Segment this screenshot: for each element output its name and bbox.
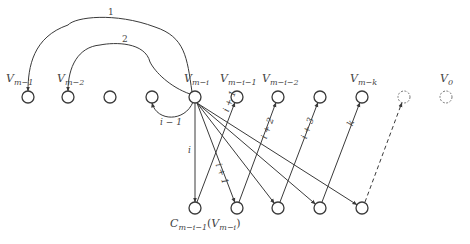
node-v-m-k <box>356 91 368 103</box>
arc-edge-2 <box>68 44 190 94</box>
node-v-c <box>314 91 326 103</box>
label-v-0: V0 <box>440 73 453 87</box>
arc-edge-1 <box>28 17 192 92</box>
node-bottom-c1 <box>189 202 201 214</box>
label-v-m-k: Vm−k <box>350 73 377 87</box>
node-v-m-i-2 <box>272 91 284 103</box>
arc-label-2: 2 <box>122 35 128 44</box>
node-v-0 <box>440 91 452 103</box>
edge-down-c3 <box>197 103 274 203</box>
edge-down-c4 <box>197 103 315 204</box>
node-bottom-c2 <box>231 202 243 214</box>
graph-diagram: Vm−1 Vm−2 Vm−i Vm−i−1 Vm−i−2 Vm−k V0 Cm−… <box>0 0 470 244</box>
node-v-b <box>146 91 158 103</box>
label-v-m-i-1: Vm−i−1 <box>220 73 257 87</box>
label-c-m-i-1: Cm−i−1(Vm−i) <box>170 218 240 232</box>
node-bottom-c3 <box>272 202 284 214</box>
edge-label-i: i <box>188 146 191 155</box>
node-bottom-c4 <box>314 202 326 214</box>
edge-down-c5 <box>197 103 357 205</box>
label-v-m-i: Vm−i <box>184 73 209 87</box>
arc-label-1: 1 <box>108 8 114 17</box>
label-v-m-2: Vm−2 <box>57 73 84 87</box>
node-bottom-c5 <box>356 202 368 214</box>
edge-up-v-m-k <box>322 103 360 202</box>
label-v-m-i-2: Vm−i−2 <box>262 73 299 87</box>
label-v-m-1: Vm−1 <box>6 73 33 87</box>
node-v-m-1 <box>22 91 34 103</box>
graph-canvas <box>0 0 470 244</box>
edge-up-dashed <box>365 103 402 202</box>
node-v-a <box>104 91 116 103</box>
loop-edge-i-minus-1 <box>152 102 193 117</box>
node-v-d <box>398 91 410 103</box>
node-v-m-2 <box>62 91 74 103</box>
node-v-m-i <box>189 91 201 103</box>
loop-label-i-minus-1: i − 1 <box>160 118 182 127</box>
